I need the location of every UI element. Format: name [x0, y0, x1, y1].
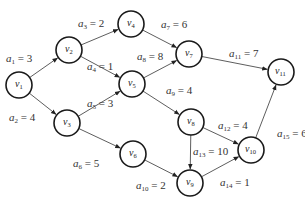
edge-label-a7: a7 = 6: [161, 18, 188, 32]
node-v6: v6: [120, 141, 146, 167]
arrow-icon: [201, 157, 238, 177]
nodes-layer: v1v2v3v4v5v6v7v8v9v10v11: [6, 11, 294, 196]
edge-label-a1: a1 = 3: [6, 52, 33, 66]
node-v1: v1: [6, 72, 32, 98]
arrow-icon: [190, 135, 191, 169]
node-v7: v7: [176, 41, 202, 67]
edge-label-a6: a6 = 5: [73, 157, 100, 171]
node-v3: v3: [54, 110, 80, 136]
edge-label-a9: a9 = 4: [166, 84, 193, 98]
arrow-icon: [30, 58, 58, 78]
edge-a13: [190, 135, 191, 169]
edge-label-a13: a13 = 10: [193, 145, 229, 159]
edge-label-a15: a15 = 6: [277, 127, 305, 141]
node-v11: v11: [268, 59, 294, 85]
edge-labels-layer: a1 = 3a2 = 4a3 = 2a4 = 1a5 = 3a6 = 5a7 =…: [6, 17, 305, 193]
node-v4: v4: [118, 11, 144, 37]
node-v5: v5: [119, 71, 145, 97]
edge-label-a10: a10 = 2: [136, 179, 166, 193]
aoe-network-diagram: a1 = 3a2 = 4a3 = 2a4 = 1a5 = 3a6 = 5a7 =…: [0, 0, 305, 200]
edge-a1: [30, 58, 58, 78]
node-v8: v8: [178, 109, 204, 135]
graph-canvas: a1 = 3a2 = 4a3 = 2a4 = 1a5 = 3a6 = 5a7 =…: [0, 0, 305, 200]
edge-label-a11: a11 = 7: [229, 47, 259, 61]
edge-label-a5: a5 = 3: [87, 97, 114, 111]
arrow-icon: [81, 29, 118, 45]
edge-a14: [201, 157, 238, 177]
edge-a6: [79, 129, 121, 149]
edge-label-a8: a8 = 8: [137, 50, 164, 64]
arrow-icon: [79, 129, 121, 149]
edge-a10: [145, 160, 178, 177]
node-v10: v10: [238, 137, 264, 163]
node-v2: v2: [56, 37, 82, 63]
edge-a8: [144, 61, 177, 78]
arrow-icon: [143, 30, 177, 48]
arrow-icon: [144, 61, 177, 78]
edge-label-a12: a12 = 4: [218, 119, 248, 133]
edge-label-a4: a4 = 1: [87, 60, 113, 74]
edge-a15: [256, 85, 276, 138]
edge-label-a3: a3 = 2: [78, 17, 104, 31]
edge-a7: [143, 30, 177, 48]
edge-a3: [81, 29, 118, 45]
arrow-icon: [145, 160, 178, 177]
edge-label-a2: a2 = 4: [9, 111, 36, 125]
edge-label-a14: a14 = 1: [220, 176, 250, 190]
arrow-icon: [256, 85, 276, 138]
node-v9: v9: [177, 170, 203, 196]
